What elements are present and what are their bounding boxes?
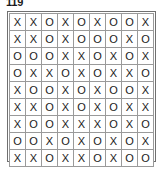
grid-cell[interactable]: O bbox=[122, 82, 138, 99]
grid-cell[interactable]: X bbox=[42, 65, 58, 82]
grid-cell[interactable]: O bbox=[138, 31, 154, 48]
grid-cell[interactable]: X bbox=[74, 150, 90, 167]
grid-cell[interactable]: O bbox=[90, 48, 106, 65]
grid-cell[interactable]: O bbox=[106, 116, 122, 133]
grid-row: OOXOXOXOX bbox=[10, 133, 154, 150]
grid-cell[interactable]: X bbox=[106, 133, 122, 150]
grid-cell[interactable]: X bbox=[58, 116, 74, 133]
grid-cell[interactable]: X bbox=[26, 150, 42, 167]
grid-cell[interactable]: O bbox=[10, 65, 26, 82]
grid-cell[interactable]: O bbox=[138, 116, 154, 133]
grid-row: OOOXXOXOX bbox=[10, 48, 154, 65]
grid-cell[interactable]: X bbox=[90, 116, 106, 133]
grid-cell[interactable]: O bbox=[138, 65, 154, 82]
grid-cell[interactable]: X bbox=[26, 14, 42, 31]
grid-cell[interactable]: X bbox=[10, 82, 26, 99]
grid-cell[interactable]: O bbox=[74, 14, 90, 31]
grid-cell[interactable]: X bbox=[90, 99, 106, 116]
grid-cell[interactable]: O bbox=[26, 133, 42, 150]
grid-cell[interactable]: O bbox=[90, 65, 106, 82]
grid-cell[interactable]: O bbox=[138, 150, 154, 167]
grid-cell[interactable]: X bbox=[122, 31, 138, 48]
grid-row: XOOXOXOOX bbox=[10, 82, 154, 99]
grid-cell[interactable]: O bbox=[122, 150, 138, 167]
grid-cell[interactable]: X bbox=[138, 99, 154, 116]
grid-cell[interactable]: O bbox=[26, 82, 42, 99]
grid-cell[interactable]: O bbox=[42, 150, 58, 167]
grid-row: XOOXXXOXO bbox=[10, 116, 154, 133]
grid-cell[interactable]: X bbox=[26, 99, 42, 116]
grid-cell[interactable]: O bbox=[122, 133, 138, 150]
grid-cell[interactable]: X bbox=[26, 31, 42, 48]
grid-cell[interactable]: X bbox=[74, 116, 90, 133]
grid-cell[interactable]: O bbox=[42, 14, 58, 31]
grid-cell[interactable]: X bbox=[138, 48, 154, 65]
grid-row: XXOXOXOOX bbox=[10, 14, 154, 31]
grid-container: XXOXOXOOXXXOXOOOXOOOOXXOXOXOXXOXOXXOXOOX… bbox=[7, 11, 156, 162]
grid-cell[interactable]: X bbox=[138, 133, 154, 150]
figure-number-label: 119 bbox=[6, 0, 23, 8]
grid-cell[interactable]: O bbox=[74, 82, 90, 99]
grid-cell[interactable]: X bbox=[10, 31, 26, 48]
grid-cell[interactable]: X bbox=[10, 150, 26, 167]
grid-cell[interactable]: X bbox=[26, 65, 42, 82]
grid-cell[interactable]: X bbox=[74, 65, 90, 82]
grid-cell[interactable]: X bbox=[90, 82, 106, 99]
grid-cell[interactable]: X bbox=[90, 14, 106, 31]
grid-cell[interactable]: O bbox=[10, 48, 26, 65]
grid-cell[interactable]: X bbox=[10, 14, 26, 31]
grid-cell[interactable]: O bbox=[42, 116, 58, 133]
grid-cell[interactable]: O bbox=[122, 14, 138, 31]
grid-cell[interactable]: X bbox=[10, 99, 26, 116]
grid-row: XXOXOXOXX bbox=[10, 99, 154, 116]
grid-cell[interactable]: X bbox=[122, 65, 138, 82]
grid-cell[interactable]: X bbox=[122, 116, 138, 133]
xo-grid: XXOXOXOOXXXOXOOOXOOOOXXOXOXOXXOXOXXOXOOX… bbox=[9, 13, 154, 167]
grid-cell[interactable]: X bbox=[58, 82, 74, 99]
grid-cell[interactable]: O bbox=[42, 31, 58, 48]
puzzle-page: 119 XXOXOXOOXXXOXOOOXOOOOXXOXOXOXXOXOXXO… bbox=[0, 0, 164, 172]
grid-cell[interactable]: O bbox=[90, 150, 106, 167]
grid-cell[interactable]: O bbox=[122, 48, 138, 65]
grid-cell[interactable]: O bbox=[42, 48, 58, 65]
grid-cell[interactable]: X bbox=[58, 99, 74, 116]
grid-cell[interactable]: O bbox=[42, 99, 58, 116]
grid-cell[interactable]: X bbox=[138, 14, 154, 31]
grid-cell[interactable]: O bbox=[74, 99, 90, 116]
grid-cell[interactable]: O bbox=[26, 116, 42, 133]
grid-cell[interactable]: X bbox=[106, 150, 122, 167]
grid-row: XXOXXOXOO bbox=[10, 150, 154, 167]
grid-cell[interactable]: O bbox=[58, 65, 74, 82]
grid-cell[interactable]: O bbox=[10, 133, 26, 150]
grid-cell[interactable]: O bbox=[58, 133, 74, 150]
grid-cell[interactable]: X bbox=[138, 82, 154, 99]
grid-cell[interactable]: X bbox=[58, 14, 74, 31]
grid-cell[interactable]: X bbox=[74, 133, 90, 150]
grid-cell[interactable]: X bbox=[106, 48, 122, 65]
grid-cell[interactable]: X bbox=[10, 116, 26, 133]
grid-cell[interactable]: X bbox=[122, 99, 138, 116]
grid-cell[interactable]: O bbox=[90, 133, 106, 150]
grid-cell[interactable]: O bbox=[74, 31, 90, 48]
grid-cell[interactable]: X bbox=[58, 150, 74, 167]
grid-cell[interactable]: O bbox=[106, 14, 122, 31]
grid-cell[interactable]: X bbox=[106, 65, 122, 82]
grid-cell[interactable]: X bbox=[74, 48, 90, 65]
grid-cell[interactable]: O bbox=[42, 82, 58, 99]
grid-cell[interactable]: X bbox=[58, 48, 74, 65]
grid-cell[interactable]: O bbox=[106, 82, 122, 99]
grid-cell[interactable]: X bbox=[42, 133, 58, 150]
grid-row: XXOXOOOXO bbox=[10, 31, 154, 48]
grid-cell[interactable]: O bbox=[90, 31, 106, 48]
grid-cell[interactable]: O bbox=[106, 31, 122, 48]
grid-row: OXXOXOXXO bbox=[10, 65, 154, 82]
grid-cell[interactable]: O bbox=[26, 48, 42, 65]
grid-cell[interactable]: O bbox=[106, 99, 122, 116]
grid-cell[interactable]: X bbox=[58, 31, 74, 48]
grid-body: XXOXOXOOXXXOXOOOXOOOOXXOXOXOXXOXOXXOXOOX… bbox=[10, 14, 154, 167]
